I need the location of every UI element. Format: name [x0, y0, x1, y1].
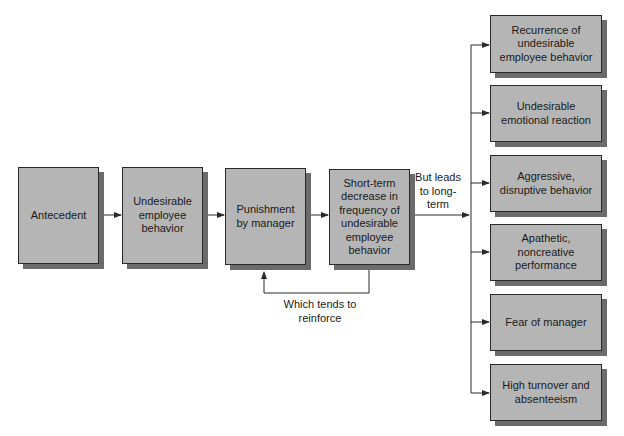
box-text: Undesirable emotional reaction — [495, 100, 597, 127]
box-short-term-decrease: Short-term decrease in frequency of unde… — [329, 169, 410, 265]
box-fear: Fear of manager — [490, 294, 602, 351]
box-antecedent: Antecedent — [18, 167, 99, 264]
box-text: Apathetic, noncreative performance — [495, 232, 597, 273]
box-text: Undesirable employee behavior — [127, 195, 198, 236]
box-emotional-reaction: Undesirable emotional reaction — [490, 85, 602, 142]
box-text: Short-term decrease in frequency of unde… — [334, 177, 405, 258]
branch-label: But leads to long-term — [412, 171, 464, 212]
box-text: Antecedent — [31, 209, 87, 223]
box-punishment: Punishment by manager — [225, 168, 306, 265]
feedback-label: Which tends to reinforce — [272, 298, 368, 325]
box-turnover: High turnover and absenteeism — [490, 364, 602, 421]
box-text: Fear of manager — [505, 316, 586, 330]
box-text: High turnover and absenteeism — [495, 379, 597, 406]
box-undesirable-behavior: Undesirable employee behavior — [122, 167, 203, 264]
box-text: Punishment by manager — [230, 203, 301, 230]
box-text: Recurrence of undesirable employee behav… — [495, 24, 597, 65]
box-aggressive: Aggressive, disruptive behavior — [490, 155, 602, 212]
box-text: Aggressive, disruptive behavior — [495, 170, 597, 197]
box-apathetic: Apathetic, noncreative performance — [490, 224, 602, 281]
box-recurrence: Recurrence of undesirable employee behav… — [490, 15, 602, 73]
